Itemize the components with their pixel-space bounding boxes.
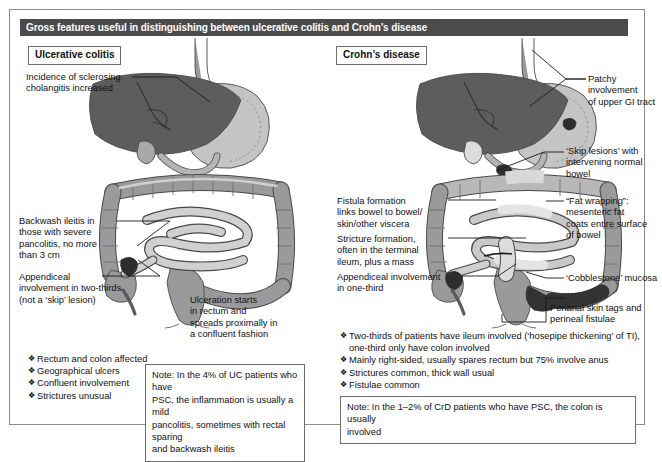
crohns-disease-note: Note: In the 1–2% of CrD patients who ha…	[340, 396, 636, 444]
list-item: Strictures common, thick wall usual	[340, 367, 640, 379]
list-item: Mainly right-sided, usually spares rectu…	[340, 354, 640, 366]
list-item: Fistulae common	[340, 379, 640, 391]
ulcerative-colitis-note: Note: In the 4% of UC patients who have …	[145, 364, 305, 462]
crohns-disease-bullets: Two-thirds of patients have ileum involv…	[340, 330, 640, 391]
figure-frame: Gross features useful in distinguishing …	[9, 9, 645, 425]
list-item: Two-thirds of patients have ileum involv…	[340, 330, 640, 354]
